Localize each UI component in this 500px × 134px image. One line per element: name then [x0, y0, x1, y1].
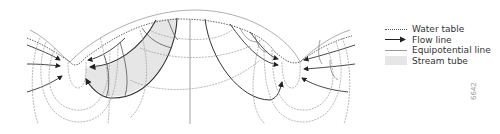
legend-label: Water table: [412, 24, 464, 35]
flow-net-diagram: [0, 0, 380, 134]
legend-label: Flow line: [412, 35, 452, 46]
flow-line-arrow-icon: [385, 35, 407, 44]
stream-tube-area: [85, 18, 177, 96]
water-table: [27, 19, 352, 65]
legend: Water table Flow line Equipotential line…: [385, 24, 491, 66]
water-table-swatch-icon: [385, 29, 407, 30]
right-well: [282, 62, 300, 88]
left-well: [68, 62, 86, 88]
legend-label: Stream tube: [412, 56, 468, 67]
legend-item-water-table: Water table: [385, 24, 491, 35]
legend-label: Equipotential line: [412, 45, 491, 56]
stream-tube-swatch-icon: [385, 56, 407, 65]
figure-id: 6642: [470, 82, 478, 100]
legend-item-stream-tube: Stream tube: [385, 56, 491, 67]
legend-item-flow-line: Flow line: [385, 35, 491, 46]
equipotential-swatch-icon: [385, 50, 407, 51]
legend-item-equipotential: Equipotential line: [385, 45, 491, 56]
